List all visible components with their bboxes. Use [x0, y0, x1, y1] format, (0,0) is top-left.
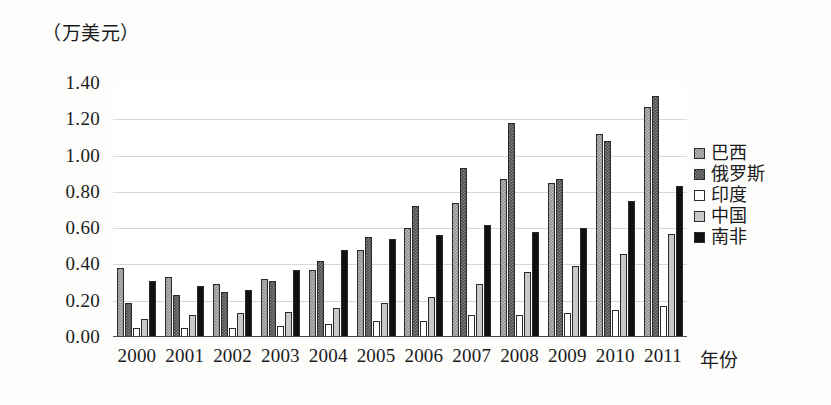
bar [213, 284, 220, 337]
bar [245, 290, 252, 337]
bar [412, 206, 419, 337]
bar [428, 297, 435, 337]
bar [117, 268, 124, 337]
plot-area [113, 83, 687, 337]
bar [676, 186, 683, 337]
bar [612, 310, 619, 337]
y-axis-tick-label: 0.60 [38, 217, 100, 239]
bar [660, 306, 667, 337]
bar [173, 295, 180, 337]
bar-group [256, 83, 304, 337]
bar [668, 234, 675, 337]
bar [404, 228, 411, 337]
bar [452, 203, 459, 337]
legend-swatch-icon [694, 232, 705, 243]
bar [221, 292, 228, 337]
bar-group [543, 83, 591, 337]
bar [285, 312, 292, 337]
bar [548, 183, 555, 337]
bar [500, 179, 507, 337]
bar-group [496, 83, 544, 337]
legend-swatch-icon [694, 169, 705, 180]
bar [596, 134, 603, 337]
bar [149, 281, 156, 337]
bar [476, 284, 483, 337]
bar [261, 279, 268, 337]
y-axis-tick-label: 0.80 [38, 181, 100, 203]
bar [556, 179, 563, 337]
y-axis-tick-label: 1.20 [38, 108, 100, 130]
bar-group [209, 83, 257, 337]
x-axis-tick-label: 2006 [400, 345, 448, 367]
x-axis-tick-label: 2010 [591, 345, 639, 367]
x-axis-tick-label: 2005 [352, 345, 400, 367]
bar-group [161, 83, 209, 337]
bar [436, 235, 443, 337]
bar [141, 319, 148, 337]
bar [165, 277, 172, 337]
bar [484, 225, 491, 337]
bar-group [352, 83, 400, 337]
x-axis-tick-label: 2004 [304, 345, 352, 367]
legend-label: 印度 [711, 186, 747, 204]
bar [293, 270, 300, 337]
bar [333, 308, 340, 337]
bar [516, 315, 523, 337]
y-axis-tick-label: 0.00 [38, 326, 100, 348]
y-axis-tick-label: 1.00 [38, 145, 100, 167]
bar [604, 141, 611, 337]
bar [644, 107, 651, 337]
y-axis-tick-label: 1.40 [38, 72, 100, 94]
bar [125, 303, 132, 337]
bar [357, 250, 364, 337]
bar-group [639, 83, 687, 337]
bar [652, 96, 659, 337]
x-axis-tick-label: 2008 [496, 345, 544, 367]
legend-swatch-icon [694, 148, 705, 159]
bar [572, 266, 579, 337]
bar [620, 254, 627, 337]
x-axis-tick-label: 2002 [209, 345, 257, 367]
legend-label: 俄罗斯 [711, 165, 765, 183]
x-axis-tick-label: 2007 [448, 345, 496, 367]
y-axis-tick-label: 0.20 [38, 290, 100, 312]
y-axis-tick-label: 0.40 [38, 253, 100, 275]
bar [381, 303, 388, 337]
bar [269, 281, 276, 337]
legend-item: 中国 [694, 207, 765, 225]
bar [189, 315, 196, 337]
bar [197, 286, 204, 337]
legend: 巴西俄罗斯印度中国南非 [694, 144, 765, 246]
bar [309, 270, 316, 337]
bar-group [591, 83, 639, 337]
bar [341, 250, 348, 337]
bar [508, 123, 515, 337]
bar [317, 261, 324, 337]
legend-item: 巴西 [694, 144, 765, 162]
legend-swatch-icon [694, 211, 705, 222]
bar [628, 201, 635, 337]
legend-item: 印度 [694, 186, 765, 204]
x-axis-tick-label: 2009 [543, 345, 591, 367]
legend-swatch-icon [694, 190, 705, 201]
x-axis-tick-label: 2000 [113, 345, 161, 367]
x-axis-tick-label: 2011 [639, 345, 687, 367]
x-axis-tick-labels: 2000200120022003200420052006200720082009… [113, 345, 687, 367]
bar-groups [113, 83, 687, 337]
bar-group [448, 83, 496, 337]
x-axis-title: 年份 [700, 345, 738, 372]
bar [580, 228, 587, 337]
bar [524, 272, 531, 337]
legend-label: 中国 [711, 207, 747, 225]
bar-group [400, 83, 448, 337]
bar [460, 168, 467, 337]
bar [389, 239, 396, 337]
bar [564, 313, 571, 337]
bar-group [304, 83, 352, 337]
bar-chart: （万美元） 1.401.201.000.800.600.400.200.00 2… [0, 0, 831, 405]
y-axis-unit-caption: （万美元） [42, 18, 140, 45]
legend-item: 南非 [694, 228, 765, 246]
legend-label: 南非 [711, 228, 747, 246]
bar [468, 315, 475, 337]
bar [532, 232, 539, 337]
